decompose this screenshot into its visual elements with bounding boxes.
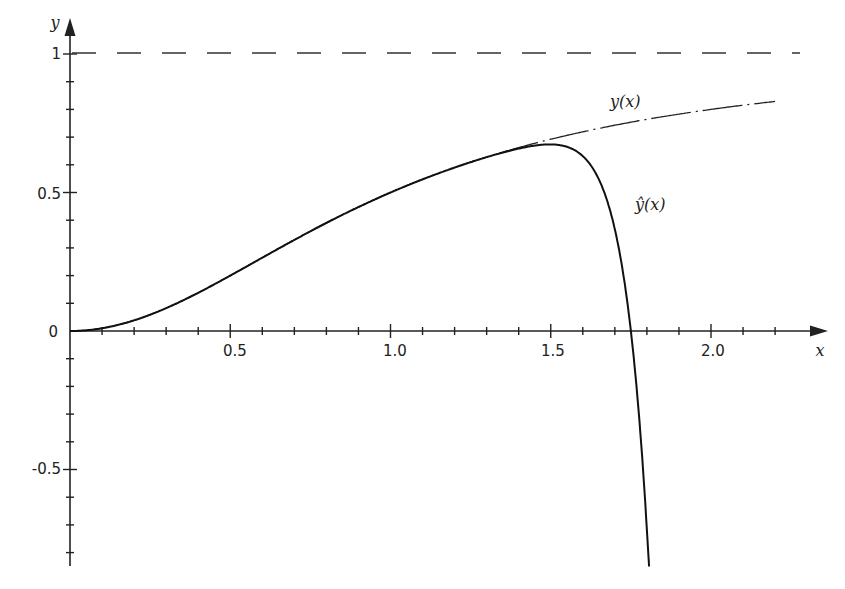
curve-y-of-x	[70, 101, 775, 331]
x-tick-label-2.0: 2.0	[701, 342, 725, 360]
y-tick-label-0: 0	[48, 323, 58, 341]
y-axis-arrow-icon	[65, 18, 76, 36]
x-axis-label: x	[815, 341, 824, 360]
y-axis-label: y	[49, 13, 60, 32]
y-axis: 1 0.5 0 -0.5 y	[32, 13, 77, 566]
curve-label-y-hat: ŷ(x)	[634, 195, 666, 214]
y-tick-label-1: 1	[51, 45, 61, 63]
x-axis: 0.5 1.0 1.5 2.0 x	[70, 324, 828, 360]
x-axis-arrow-icon	[810, 326, 828, 337]
x-tick-label-1.5: 1.5	[541, 342, 565, 360]
curve-label-y: y(x)	[609, 92, 641, 111]
x-tick-label-0.5: 0.5	[223, 342, 247, 360]
y-tick-label-0.5: 0.5	[37, 185, 61, 203]
x-tick-label-1.0: 1.0	[383, 342, 407, 360]
y-tick-label-minus-0.5: -0.5	[32, 460, 61, 478]
chart: 0.5 1.0 1.5 2.0 x 1 0.5 0 -0.5 y y(x) ŷ(…	[0, 0, 845, 589]
